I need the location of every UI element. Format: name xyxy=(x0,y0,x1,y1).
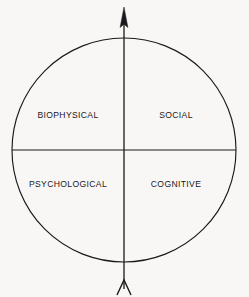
arrow-up-icon xyxy=(120,7,128,28)
quadrant-diagram: BIOPHYSICAL SOCIAL PSYCHOLOGICAL COGNITI… xyxy=(0,0,249,297)
diagram-canvas xyxy=(0,0,249,297)
quadrant-label-bottom-right: COGNITIVE xyxy=(151,179,201,189)
quadrant-label-top-left: BIOPHYSICAL xyxy=(37,110,98,120)
quadrant-label-bottom-left: PSYCHOLOGICAL xyxy=(29,179,107,189)
quadrant-label-top-right: SOCIAL xyxy=(159,110,193,120)
